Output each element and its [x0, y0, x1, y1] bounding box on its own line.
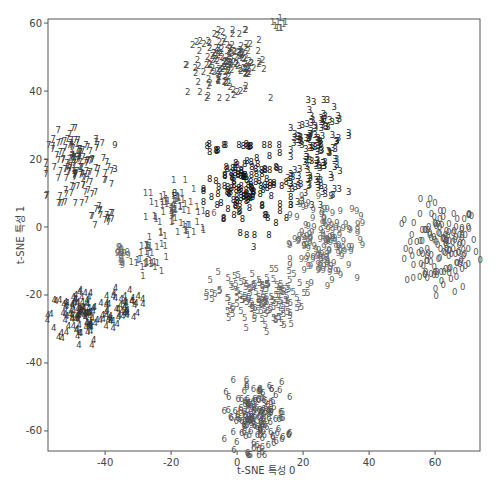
digit-point-4: 4: [62, 315, 67, 325]
digit-point-1: 1: [133, 258, 138, 268]
digit-point-9: 9: [300, 202, 305, 212]
digit-point-2: 2: [227, 47, 232, 57]
digit-point-8: 8: [222, 171, 227, 181]
digit-point-5: 5: [279, 318, 284, 328]
digit-point-6: 6: [226, 392, 231, 402]
y-tick-label: -60: [26, 425, 42, 436]
digit-point-6: 6: [271, 438, 276, 448]
digit-point-5: 5: [286, 284, 291, 294]
y-tick-label: 0: [36, 222, 42, 233]
digit-point-6: 6: [264, 422, 269, 432]
digit-point-0: 0: [404, 275, 409, 285]
digit-point-7: 7: [99, 138, 104, 148]
digit-point-9: 9: [318, 255, 323, 265]
digit-point-2: 2: [201, 67, 206, 77]
digit-point-7: 7: [95, 164, 100, 174]
digit-point-7: 7: [84, 166, 89, 176]
digit-point-6: 6: [259, 433, 264, 443]
digit-point-6: 6: [287, 392, 292, 402]
digit-point-0: 0: [460, 282, 465, 292]
digit-point-2: 2: [185, 87, 190, 97]
digit-point-9: 9: [327, 264, 332, 274]
digit-point-4: 4: [104, 291, 109, 301]
digit-point-9: 9: [348, 246, 353, 256]
digit-point-0: 0: [452, 287, 457, 297]
digit-point-5: 5: [274, 280, 279, 290]
digit-point-1: 1: [152, 262, 157, 272]
digit-point-0: 0: [434, 267, 439, 277]
digit-point-9: 9: [346, 224, 351, 234]
digit-point-5: 5: [249, 304, 254, 314]
digit-point-6: 6: [242, 399, 247, 409]
digit-point-0: 0: [435, 219, 440, 229]
digit-point-8: 8: [266, 230, 271, 240]
digit-point-4: 4: [53, 296, 58, 306]
digit-point-4: 4: [131, 312, 136, 322]
x-tick-label: 40: [363, 457, 376, 468]
digit-point-7: 7: [77, 147, 82, 157]
digit-point-7: 7: [94, 143, 99, 153]
digit-point-3: 3: [334, 136, 339, 146]
digit-point-0: 0: [411, 218, 416, 228]
y-axis-ticks: -60-40-200204060: [26, 18, 48, 437]
digit-point-8: 8: [277, 148, 282, 158]
digit-point-4: 4: [122, 303, 127, 313]
y-tick-label: 60: [29, 18, 42, 29]
digit-point-2: 2: [230, 29, 235, 39]
digit-point-6: 6: [244, 382, 249, 392]
tsne-scatter-chart: 0000000000000000000000000000000000000000…: [0, 0, 496, 493]
digit-point-1: 1: [152, 211, 157, 221]
digit-point-3: 3: [305, 95, 310, 105]
digit-point-8: 8: [273, 218, 278, 228]
digit-point-5: 5: [287, 275, 292, 285]
digit-point-9: 9: [301, 265, 306, 275]
digit-point-8: 8: [237, 228, 242, 238]
digit-point-9: 9: [346, 260, 351, 270]
digit-point-5: 5: [273, 315, 278, 325]
digit-point-0: 0: [447, 263, 452, 273]
digit-point-3: 3: [332, 162, 337, 172]
digit-point-5: 5: [248, 283, 253, 293]
digit-point-2: 2: [195, 55, 200, 65]
digit-point-7: 7: [93, 134, 98, 144]
digit-point-2: 2: [243, 84, 248, 94]
digit-point-7: 7: [104, 157, 109, 167]
digit-point-3: 3: [323, 122, 328, 132]
y-tick-label: -40: [26, 357, 42, 368]
digit-point-3: 3: [322, 111, 327, 121]
digit-point-5: 5: [252, 314, 257, 324]
digit-point-1: 1: [188, 197, 193, 207]
digit-point-2: 2: [220, 27, 225, 37]
digit-point-3: 3: [346, 128, 351, 138]
digit-point-5: 5: [217, 285, 222, 295]
digit-point-5: 5: [244, 323, 249, 333]
digit-point-2: 2: [231, 90, 236, 100]
digit-point-2: 2: [206, 81, 211, 91]
digit-point-1: 1: [182, 175, 187, 185]
digit-point-9: 9: [308, 278, 313, 288]
digit-point-8: 8: [264, 174, 269, 184]
digit-point-3: 3: [295, 177, 300, 187]
digit-point-5: 5: [265, 279, 270, 289]
digit-point-0: 0: [425, 200, 430, 210]
digit-point-9: 9: [124, 247, 129, 257]
digit-point-5: 5: [259, 299, 264, 309]
x-tick-label: 20: [297, 457, 310, 468]
digit-point-8: 8: [277, 165, 282, 175]
digit-point-3: 3: [251, 242, 256, 252]
digit-point-0: 0: [433, 284, 438, 294]
digit-point-2: 2: [183, 60, 188, 70]
digit-point-0: 0: [428, 233, 433, 243]
digit-point-9: 9: [305, 243, 310, 253]
digit-point-2: 2: [195, 77, 200, 87]
digit-point-2: 2: [217, 93, 222, 103]
digit-point-8: 8: [277, 206, 282, 216]
digit-point-7: 7: [72, 198, 77, 208]
digit-point-7: 7: [68, 138, 73, 148]
digit-point-8: 8: [259, 200, 264, 210]
digit-point-3: 3: [325, 95, 330, 105]
digit-point-7: 7: [59, 198, 64, 208]
digit-point-6: 6: [286, 430, 291, 440]
digit-point-1: 1: [159, 200, 164, 210]
digit-point-5: 5: [287, 308, 292, 318]
